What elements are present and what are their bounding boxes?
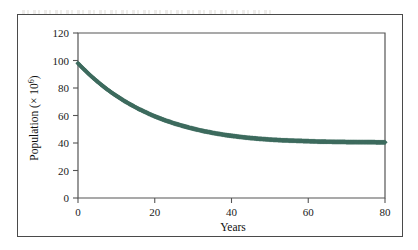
population-decay-chart: 020406080100120 020406080 Population (× …	[0, 0, 418, 250]
x-tick-label: 60	[303, 206, 315, 218]
x-axis-title: Years	[220, 221, 246, 233]
x-tick-label: 80	[380, 206, 392, 218]
y-tick-label: 40	[58, 137, 70, 149]
x-axis-title-group: Years	[220, 221, 246, 233]
y-axis: 020406080100120	[53, 27, 79, 204]
y-axis-title-close: )	[28, 75, 41, 79]
x-tick-label: 0	[75, 206, 81, 218]
x-tick-label: 40	[226, 206, 238, 218]
y-tick-label: 0	[64, 192, 70, 204]
x-axis: 020406080	[75, 198, 391, 218]
x-tick-label: 20	[149, 206, 161, 218]
chart-figure: 020406080100120 020406080 Population (× …	[0, 0, 418, 250]
y-tick-label: 120	[53, 27, 70, 39]
y-tick-label: 60	[58, 110, 70, 122]
y-axis-title-base: Population (× 10	[28, 83, 41, 161]
plot-frame-path	[78, 33, 385, 198]
y-tick-label: 100	[53, 55, 70, 67]
y-axis-title-group: Population (× 106)	[27, 75, 41, 160]
plot-frame	[78, 33, 385, 198]
y-axis-title: Population (× 106)	[27, 75, 41, 160]
data-series-population	[75, 61, 387, 145]
y-tick-label: 80	[58, 82, 70, 94]
y-tick-label: 20	[58, 165, 70, 177]
